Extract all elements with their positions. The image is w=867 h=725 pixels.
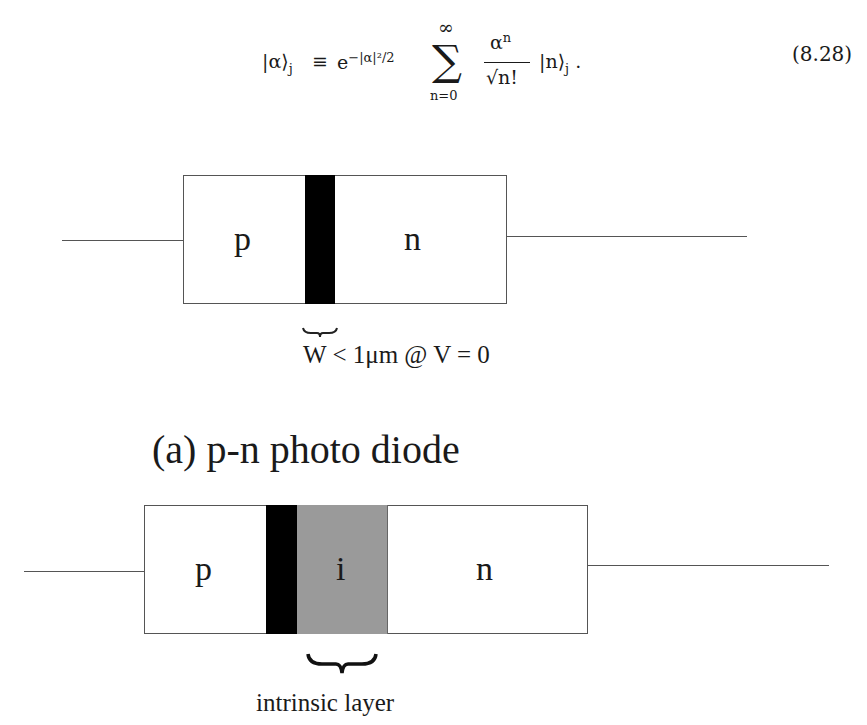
sum-sign: ∑ [432, 40, 462, 82]
depletion-width-label: W < 1μm @ V = 0 [303, 342, 490, 367]
lhs-ket-symbol: |α⟩ [262, 50, 289, 72]
depletion-region [305, 175, 335, 304]
depletion-region [266, 505, 297, 634]
fraction-denominator: √n! [486, 66, 518, 88]
diode-body [183, 175, 507, 304]
lhs-subscript: j [289, 61, 293, 76]
numerator-power: n [503, 30, 511, 45]
rhs-subscript: j [565, 61, 569, 76]
equiv-sign: ≡ [312, 50, 328, 72]
numerator-alpha: α [490, 31, 503, 53]
depletion-width-brace-icon [302, 326, 338, 338]
equation-number: (8.28) [792, 42, 852, 66]
i-region-label: i [336, 552, 345, 586]
intrinsic-layer-brace-icon [306, 652, 378, 676]
left-lead-wire [62, 240, 183, 241]
p-region-label: p [195, 552, 212, 586]
exp-power: −|α|²/2 [348, 50, 394, 65]
exp-base: e [337, 51, 348, 73]
lhs-ket: |α⟩j [262, 50, 293, 76]
period: . [575, 50, 581, 72]
infinity-symbol: ∞ [438, 16, 454, 38]
diagram-a-caption: (a) p-n photo diode [152, 430, 460, 470]
p-region-label: p [234, 222, 251, 256]
rhs-ket-symbol: |n⟩ [539, 50, 565, 72]
exponential: e−|α|²/2 [337, 50, 395, 73]
right-lead-wire [588, 565, 829, 566]
sum-lower-limit: n=0 [430, 88, 458, 103]
sum-upper-limit: ∞ [438, 16, 454, 38]
rhs-ket: |n⟩j . [539, 50, 581, 76]
coherent-state-equation: |α⟩j ≡ e−|α|²/2 ∞ ∑ n=0 αn √n! |n⟩j . [262, 22, 782, 102]
right-lead-wire [507, 236, 747, 237]
fraction-numerator: αn [490, 30, 511, 53]
n-region-label: n [476, 552, 493, 586]
left-lead-wire [24, 571, 144, 572]
intrinsic-layer-label: intrinsic layer [256, 690, 394, 715]
n-region-label: n [404, 222, 421, 256]
fraction-bar [484, 62, 530, 63]
